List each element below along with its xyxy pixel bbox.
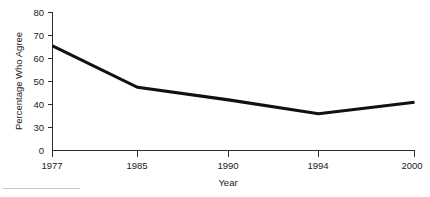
x-tick-label-2000: 2000 xyxy=(401,160,422,171)
line-chart-figure: 80 70 60 50 40 30 0 1977 1985 1990 1994 … xyxy=(0,0,430,197)
x-tick-label-1994: 1994 xyxy=(307,160,328,171)
x-tick-label-1977: 1977 xyxy=(41,160,62,171)
y-tick-label-30: 30 xyxy=(33,122,44,133)
y-tick-label-80: 80 xyxy=(33,7,44,18)
x-tick-label-1985: 1985 xyxy=(126,160,147,171)
y-axis-title: Percentage Who Agree xyxy=(13,32,24,130)
y-tick-label-40: 40 xyxy=(33,99,44,110)
y-tick-label-60: 60 xyxy=(33,53,44,64)
x-tick-label-1990: 1990 xyxy=(217,160,238,171)
data-series-line xyxy=(53,46,415,114)
x-axis-title: Year xyxy=(218,177,237,188)
y-tick-label-0: 0 xyxy=(39,145,44,156)
y-tick-label-50: 50 xyxy=(33,76,44,87)
chart-canvas: 80 70 60 50 40 30 0 1977 1985 1990 1994 … xyxy=(0,0,430,197)
y-tick-label-70: 70 xyxy=(33,30,44,41)
